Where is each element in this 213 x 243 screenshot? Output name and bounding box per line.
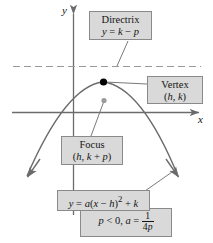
condition-text: p < 0, a = 14p bbox=[81, 211, 171, 231]
equation-plus: + bbox=[122, 198, 133, 209]
focus-coord-plus: + bbox=[91, 151, 102, 162]
equation-leader-line bbox=[145, 172, 172, 191]
directrix-eq-rel: = bbox=[109, 26, 115, 37]
focus-paren-close: ) bbox=[108, 151, 112, 162]
equation-text: y = a(x − h)2 + k bbox=[58, 194, 149, 210]
vertex-point bbox=[100, 78, 107, 85]
focus-title: Focus bbox=[62, 139, 122, 151]
callout-condition: p < 0, a = 14p bbox=[80, 208, 172, 237]
directrix-leader-line bbox=[117, 41, 128, 66]
directrix-eq-p: p bbox=[134, 26, 139, 37]
focus-leader-line bbox=[91, 101, 104, 136]
focus-point bbox=[101, 98, 106, 103]
equation-var-k: k bbox=[134, 198, 139, 209]
callout-focus: Focus (h, k + p) bbox=[61, 136, 123, 165]
directrix-eq-op: − bbox=[125, 26, 131, 37]
directrix-eq-k: k bbox=[118, 26, 123, 37]
vertex-paren-close: ) bbox=[183, 91, 187, 102]
vertex-title: Vertex bbox=[148, 79, 202, 91]
condition-a-relation: = bbox=[131, 215, 142, 226]
vertex-coordinates: (h, k) bbox=[148, 91, 202, 103]
directrix-equation: y = k − p bbox=[90, 26, 151, 38]
fraction-den-var: p bbox=[148, 221, 153, 232]
condition-fraction: 14p bbox=[142, 211, 154, 231]
x-axis-label: x bbox=[198, 113, 203, 125]
callout-vertex: Vertex (h, k) bbox=[147, 76, 203, 104]
callout-directrix: Directrix y = k − p bbox=[89, 11, 152, 40]
directrix-eq-lhs: y bbox=[102, 26, 107, 37]
parabola-figure: y x Directrix y = k − p Vertex (h, k) Fo… bbox=[0, 0, 213, 243]
callout-equation: y = a(x − h)2 + k bbox=[57, 190, 150, 211]
equation-rel: = bbox=[76, 198, 82, 209]
directrix-title: Directrix bbox=[90, 14, 151, 26]
equation-lhs: y bbox=[69, 198, 74, 209]
condition-p-relation: < 0, bbox=[104, 215, 126, 226]
equation-minus: − bbox=[98, 198, 109, 209]
y-axis-label: y bbox=[62, 4, 67, 16]
fraction-denominator: 4p bbox=[142, 222, 154, 232]
focus-coordinates: (h, k + p) bbox=[62, 151, 122, 163]
